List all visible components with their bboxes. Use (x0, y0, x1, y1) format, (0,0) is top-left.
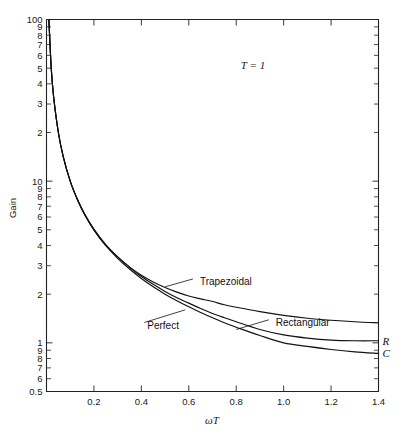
chart-figure: 100987654321098765432198760.5 0.20.40.60… (0, 0, 399, 436)
svg-text:1.0: 1.0 (277, 396, 290, 407)
svg-text:0.6: 0.6 (182, 396, 195, 407)
svg-text:0.8: 0.8 (230, 396, 243, 407)
right-edge-labels: RC (382, 335, 391, 360)
svg-text:5: 5 (37, 63, 42, 74)
svg-text:6: 6 (37, 50, 42, 61)
svg-text:6: 6 (37, 373, 42, 384)
edge-label-c: C (383, 347, 391, 359)
svg-text:4: 4 (37, 240, 42, 251)
curve-label-trapezoidal: Trapezoidal (200, 276, 252, 287)
svg-text:6: 6 (37, 211, 42, 222)
curve-label-perfect: Perfect (147, 320, 179, 331)
svg-text:3: 3 (37, 260, 42, 271)
x-axis-title: ωT (205, 414, 220, 426)
curve-label-rectangular: Rectangular (276, 317, 331, 328)
svg-text:4: 4 (37, 78, 42, 89)
svg-text:3: 3 (37, 98, 42, 109)
svg-text:1.4: 1.4 (372, 396, 385, 407)
svg-text:2: 2 (37, 289, 42, 300)
svg-text:2: 2 (37, 127, 42, 138)
svg-text:0.4: 0.4 (135, 396, 148, 407)
svg-text:7: 7 (37, 39, 42, 50)
svg-text:5: 5 (37, 224, 42, 235)
svg-text:7: 7 (37, 201, 42, 212)
figure-background (0, 0, 399, 436)
gain-vs-omega-t-plot: 100987654321098765432198760.5 0.20.40.60… (0, 0, 399, 436)
svg-text:1.2: 1.2 (324, 396, 337, 407)
svg-text:7: 7 (37, 362, 42, 373)
svg-text:0.2: 0.2 (87, 396, 100, 407)
period-annotation: T = 1 (241, 59, 265, 71)
edge-label-r: R (382, 335, 390, 347)
svg-text:0.5: 0.5 (29, 386, 42, 397)
y-axis-title: Gain (7, 198, 18, 218)
